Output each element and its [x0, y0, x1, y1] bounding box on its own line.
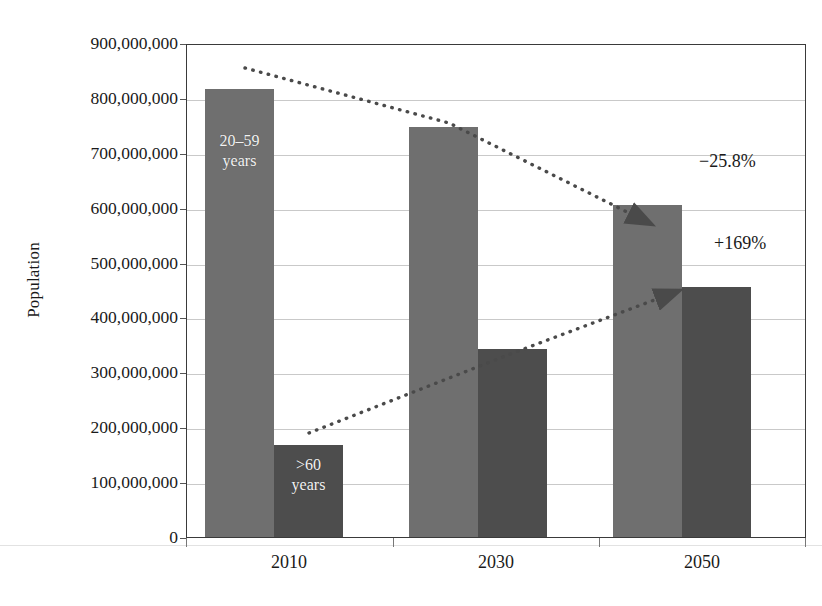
- y-tick-label: 500,000,000: [52, 255, 178, 273]
- x-tick-label-2010: 2010: [271, 552, 307, 573]
- y-axis-title-text: Population: [24, 242, 44, 318]
- y-tick-label: 900,000,000: [52, 35, 178, 53]
- decline-trend-arrow: [245, 68, 653, 225]
- x-tick-label-2030: 2030: [478, 552, 514, 573]
- x-axis-tick-marks: [186, 538, 806, 548]
- y-axis-title: Population: [14, 0, 54, 560]
- x-tick-label-2050: 2050: [684, 552, 720, 573]
- y-tick-label: 100,000,000: [52, 474, 178, 492]
- y-tick-label: 700,000,000: [52, 145, 178, 163]
- x-axis-labels: 2010 2030 2050: [186, 552, 806, 586]
- plot-area: 20–59 years >60 years: [186, 44, 806, 538]
- y-tick-label: 300,000,000: [52, 365, 178, 383]
- annotation-increase-label: +169%: [714, 233, 766, 254]
- annotation-decline-label: −25.8%: [699, 151, 756, 172]
- population-bar-chart: Population 900,000,000 800,000,000 700,0…: [0, 0, 822, 606]
- y-tick-label: 200,000,000: [52, 419, 178, 437]
- y-axis-tick-labels: 900,000,000 800,000,000 700,000,000 600,…: [52, 0, 178, 606]
- y-tick-label: 600,000,000: [52, 200, 178, 218]
- y-tick-label: 400,000,000: [52, 310, 178, 328]
- trend-arrows: [187, 45, 807, 539]
- y-tick-label: 800,000,000: [52, 90, 178, 108]
- increase-trend-arrow: [309, 290, 681, 433]
